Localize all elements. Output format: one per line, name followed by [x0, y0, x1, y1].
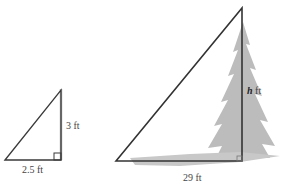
small-height-label: 3 ft: [66, 120, 80, 131]
height-unit: ft: [255, 85, 261, 96]
small-base-label: 2.5 ft: [22, 164, 43, 175]
large-base-label: 29 ft: [183, 172, 202, 183]
height-variable: h: [247, 85, 253, 96]
small-triangle: [5, 89, 61, 160]
tree-height-label: h ft: [247, 85, 261, 96]
